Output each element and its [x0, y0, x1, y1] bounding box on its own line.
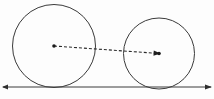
small-circle-center-dot [157, 52, 161, 56]
large-circle-center-dot [52, 44, 56, 48]
figure-canvas [0, 0, 214, 99]
geometry-figure [0, 0, 214, 99]
figure-background [0, 0, 214, 99]
